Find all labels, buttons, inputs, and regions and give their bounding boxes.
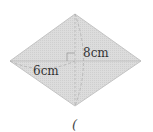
rhombus-diagram: 8cm 6cm ( — [0, 0, 153, 132]
label-8cm: 8cm — [83, 46, 109, 60]
rhombus-shape — [10, 14, 141, 106]
label-6cm: 6cm — [33, 64, 59, 78]
footer-glyph: ( — [72, 117, 78, 132]
